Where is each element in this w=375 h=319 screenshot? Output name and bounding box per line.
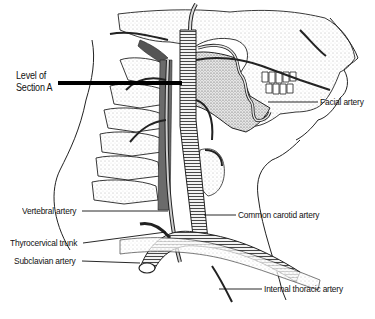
subclavian-cut-end (139, 263, 155, 273)
section-label-line-2: Section A (16, 82, 52, 94)
common-carotid-artery-label: Common carotid artery (238, 209, 319, 220)
subclavian-artery-label: Subclavian artery (14, 255, 76, 266)
thyrocervical-trunk-label: Thyrocervical trunk (10, 237, 77, 248)
cervical-vertebrae (92, 58, 168, 204)
facial-artery-label: Facial artery (320, 96, 364, 107)
internal-thoracic-artery-label: Internal thoracic artery (264, 283, 343, 294)
internal-thoracic-vessel (212, 266, 232, 302)
vertebral-artery-label: Vertebral artery (22, 205, 76, 216)
section-a-label: Level of Section A (16, 70, 52, 94)
back-of-neck (54, 40, 94, 250)
section-label-line-1: Level of (16, 70, 52, 82)
neck-arteries-illustration (0, 0, 375, 319)
